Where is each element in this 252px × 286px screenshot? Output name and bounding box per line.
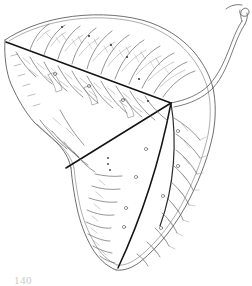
leaf-illustration	[0, 0, 252, 286]
page-number: 140	[14, 274, 32, 286]
figure-root: 140	[0, 0, 252, 286]
canvas-background	[0, 0, 252, 286]
